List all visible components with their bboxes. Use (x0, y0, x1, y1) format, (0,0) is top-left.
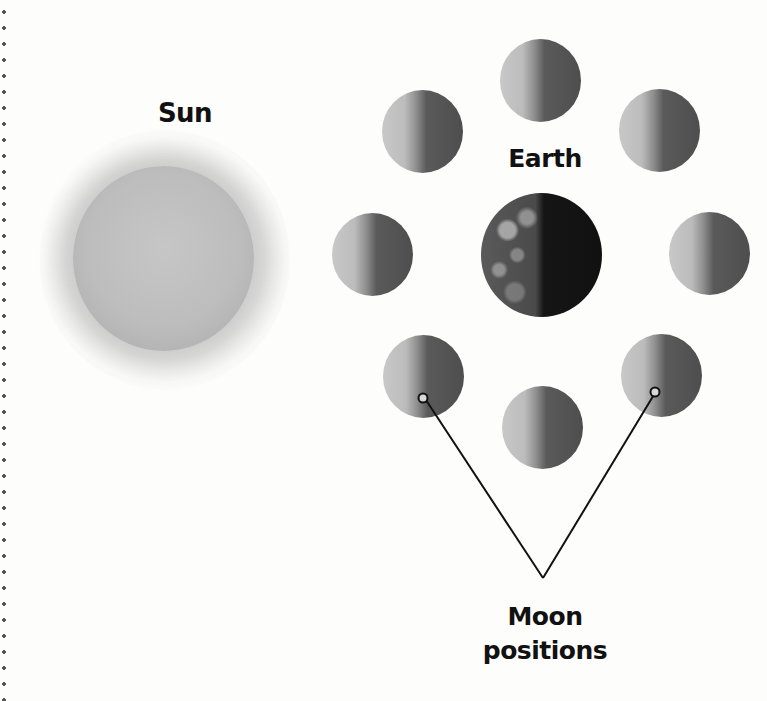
moon-label-line1: Moon (470, 600, 620, 634)
pointer-dot-right (651, 388, 660, 397)
moon-pointer-lines (0, 0, 767, 701)
pointer-dot-left (419, 394, 428, 403)
moon-positions-label: Moon positions (470, 600, 620, 668)
moon-label-line2: positions (470, 634, 620, 668)
